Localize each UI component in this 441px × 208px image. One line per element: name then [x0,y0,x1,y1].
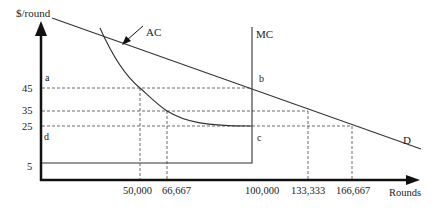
ac-label: AC [146,26,161,38]
mc-label: MC [256,28,273,40]
x-tick-100000: 100,000 [245,185,279,196]
y-tick-25: 25 [22,121,33,132]
y-tick-35: 35 [22,105,33,116]
reference-lines [42,88,352,180]
y-tick-45: 45 [22,83,33,94]
d-label: D [403,134,411,146]
x-tick-166667: 166,667 [336,185,370,196]
x-tick-133333: 133,333 [291,185,325,196]
point-c-label: c [257,132,262,143]
y-axis-arrow-icon [35,21,47,36]
point-d-label: d [44,131,49,142]
y-tick-5: 5 [27,161,32,172]
point-a-label: a [45,72,50,83]
ac-pointer-arrow [122,26,143,45]
y-axis-label: $/round [16,7,51,19]
chart: $/round Rounds 45 35 25 5 50,000 66,667 … [0,0,441,208]
point-b-label: b [259,73,264,84]
x-tick-66667: 66,667 [162,185,191,196]
axes [35,21,420,185]
x-axis-arrow-icon [406,175,420,185]
x-tick-50000: 50,000 [123,185,152,196]
x-axis-label: Rounds [389,187,421,198]
demand-curve [52,18,421,149]
chart-svg: $/round Rounds 45 35 25 5 50,000 66,667 … [0,0,441,208]
